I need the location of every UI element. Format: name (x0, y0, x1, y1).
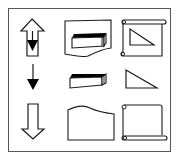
right-triangle-icon (124, 68, 160, 90)
scroll-icon (118, 102, 168, 142)
document-icon (66, 104, 118, 142)
document-with-block-icon (64, 19, 114, 59)
hollow-up-arrow-with-filled-down-arrow-icon (19, 18, 47, 58)
scroll-with-triangle-icon (120, 18, 168, 58)
filled-down-arrow-icon (25, 63, 41, 91)
hollow-down-arrow-icon (19, 103, 47, 141)
block-icon (68, 72, 108, 90)
